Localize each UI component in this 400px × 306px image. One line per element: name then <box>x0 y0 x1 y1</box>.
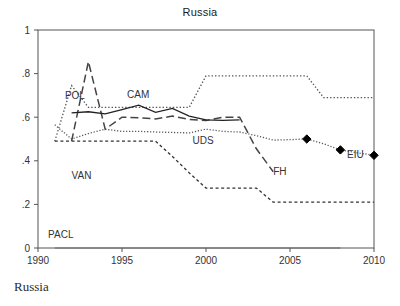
eiu-marker <box>370 151 378 159</box>
series-label-cam: CAM <box>127 89 149 100</box>
series-van: VAN <box>72 62 274 182</box>
figure-caption: Russia <box>14 279 49 295</box>
series-line <box>55 76 374 141</box>
series-line <box>55 125 374 156</box>
figure-container: Russia 0.2.4.6.8119901995200020052010POL… <box>0 0 400 306</box>
series-pacl: PACL <box>48 229 340 248</box>
y-tick-label: .4 <box>22 155 31 166</box>
x-tick-label: 2010 <box>363 255 386 266</box>
series-label-van: VAN <box>72 170 92 181</box>
y-tick-label: .8 <box>22 68 31 79</box>
y-tick-label: .6 <box>22 112 31 123</box>
series-fh: FH <box>55 141 374 202</box>
eiu-marker <box>336 146 344 154</box>
series-label-uds: UDS <box>193 135 214 146</box>
x-tick-label: 2000 <box>195 255 218 266</box>
y-tick-label: .2 <box>22 199 31 210</box>
series-label-eiu: EIU <box>347 149 364 160</box>
chart-plot: 0.2.4.6.8119901995200020052010POLVANCAMU… <box>0 0 400 306</box>
series-label-fh: FH <box>273 166 286 177</box>
y-tick-label: 1 <box>24 25 30 36</box>
x-tick-label: 1995 <box>111 255 134 266</box>
series-line <box>72 62 274 172</box>
x-tick-label: 2005 <box>279 255 302 266</box>
series-uds: UDS <box>55 125 374 156</box>
series-label-pacl: PACL <box>48 229 74 240</box>
x-tick-label: 1990 <box>27 255 50 266</box>
y-tick-label: 0 <box>24 243 30 254</box>
series-line <box>55 141 374 202</box>
series-pol: POL <box>55 76 374 141</box>
series-eiu: EIU <box>303 135 379 160</box>
eiu-marker <box>303 135 311 143</box>
